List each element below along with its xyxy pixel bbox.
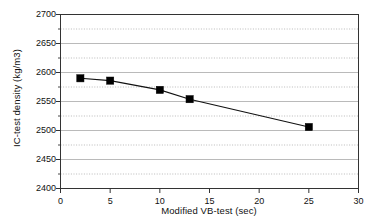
chart-figure: IC-test density (kg/m3) 2400245025002550…	[0, 0, 383, 223]
y-axis-ticks	[56, 15, 61, 189]
major-gridlines	[61, 44, 359, 160]
data-point	[107, 77, 114, 84]
data-point	[77, 75, 84, 82]
data-point	[305, 123, 312, 130]
x-axis-title: Modified VB-test (sec)	[60, 205, 358, 216]
data-point	[186, 96, 193, 103]
data-point	[156, 86, 163, 93]
series-line	[80, 78, 308, 127]
series-markers	[77, 75, 313, 131]
plot-area	[0, 0, 383, 223]
x-axis-ticks	[61, 189, 359, 194]
